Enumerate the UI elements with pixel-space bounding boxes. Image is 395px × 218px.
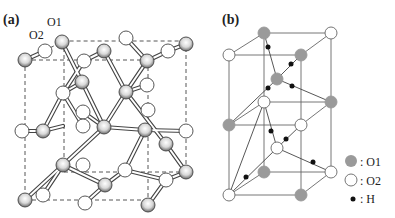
- figure-canvas: (a) O1 O2: [0, 0, 395, 218]
- o1-atom: [295, 189, 307, 201]
- o2-atom: [325, 27, 337, 39]
- o2-atom: [179, 124, 193, 138]
- h-atom: [289, 62, 294, 67]
- o1-legend-icon: [345, 155, 357, 167]
- o2-atom: [38, 44, 52, 58]
- o2-atom: [36, 188, 50, 202]
- legend: : O1 : O2 : H: [345, 155, 381, 206]
- o2-atom: [119, 31, 133, 45]
- h-atom: [266, 86, 271, 91]
- o1-atom: [98, 178, 112, 192]
- o1-atom: [18, 53, 32, 67]
- o2-atom: [76, 158, 90, 172]
- o1-atom: [97, 120, 111, 134]
- o2-atom: [325, 166, 337, 178]
- o2-atom: [140, 78, 154, 92]
- o1-atom: [97, 44, 111, 58]
- o2-atom: [78, 196, 92, 210]
- o2-annotation: O2: [29, 28, 44, 42]
- o2-atom: [295, 119, 307, 131]
- h-atom: [311, 160, 316, 165]
- o1-atom: [56, 158, 70, 172]
- o1-atom: [159, 137, 173, 151]
- o2-atom: [77, 54, 91, 68]
- h-atom: [290, 84, 295, 89]
- h-atom: [244, 175, 249, 180]
- o2-atom: [271, 142, 283, 154]
- o2-atom: [15, 124, 29, 138]
- o1-atom: [141, 198, 155, 212]
- o1-atom: [295, 49, 307, 61]
- legend-h-label: : H: [360, 192, 375, 206]
- o2-atom: [76, 105, 90, 119]
- o2-atom: [161, 44, 175, 58]
- o1-atom: [179, 37, 193, 51]
- o1-atom: [271, 73, 283, 85]
- panel-a-label: (a): [3, 12, 20, 28]
- cell-edges: [229, 33, 331, 195]
- o1-atom: [325, 96, 337, 108]
- o2-legend-icon: [345, 174, 357, 186]
- o1-atom: [119, 85, 133, 99]
- o2-atom: [223, 189, 235, 201]
- o2-atom: [141, 103, 155, 117]
- panel-b-label: (b): [222, 12, 239, 28]
- panel-b: (b): [222, 12, 381, 206]
- o1-atom: [258, 166, 270, 178]
- o2-atom: [258, 96, 270, 108]
- o2-atom: [159, 173, 173, 187]
- o1-atom: [55, 35, 69, 49]
- h-atom: [269, 129, 274, 134]
- o1-atom: [75, 75, 89, 89]
- o1-atom: [36, 124, 50, 138]
- h-atom: [284, 137, 289, 142]
- h-atom: [266, 45, 271, 50]
- h-atoms: [244, 45, 316, 180]
- o2-atom: [76, 119, 90, 133]
- o1-atom: [223, 119, 235, 131]
- panel-a: (a) O1 O2: [3, 12, 193, 212]
- o1-atom: [138, 123, 152, 137]
- legend-o2-label: : O2: [360, 174, 381, 188]
- o2-atom: [223, 49, 235, 61]
- h-legend-icon: [351, 197, 356, 202]
- o2-atom: [56, 86, 70, 100]
- o1-atom: [179, 165, 193, 179]
- o1-atom: [18, 193, 32, 207]
- legend-o1-label: : O1: [360, 155, 381, 169]
- o2-atom: [118, 163, 132, 177]
- o1-annotation: O1: [47, 15, 62, 29]
- o1-atom: [140, 54, 154, 68]
- o1-atom: [258, 27, 270, 39]
